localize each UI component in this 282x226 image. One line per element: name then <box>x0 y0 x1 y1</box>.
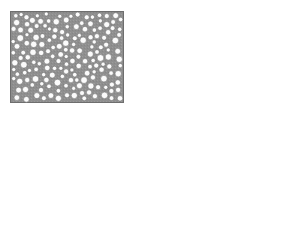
figure-root <box>0 0 282 226</box>
panel-labyrinthine-spinodal-microstructure <box>155 13 270 103</box>
panel-circular-pore-microstructure <box>10 11 124 103</box>
microstructure-canvas <box>10 11 124 103</box>
panel-notched-circular-pore-microstructure <box>155 123 270 216</box>
